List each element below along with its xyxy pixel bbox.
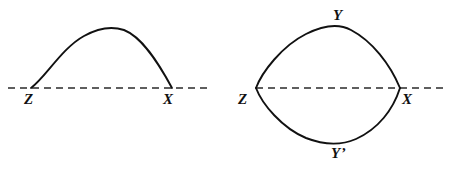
figure-canvas [0,0,451,170]
right-panel-label-x: X [402,92,412,107]
left-panel [8,28,208,88]
left-panel-label-z: Z [24,92,33,107]
right-panel-label-y-prime: Y’ [331,146,346,161]
right-panel-label-y: Y [333,8,342,23]
left-panel-geodesic-arc [31,28,172,88]
figure-root: Z X Z X Y Y’ [0,0,451,170]
right-panel [256,26,446,143]
right-panel-label-z: Z [238,92,247,107]
left-panel-label-x: X [163,92,173,107]
right-panel-upper-arc [256,26,400,88]
right-panel-lower-arc [256,88,400,143]
